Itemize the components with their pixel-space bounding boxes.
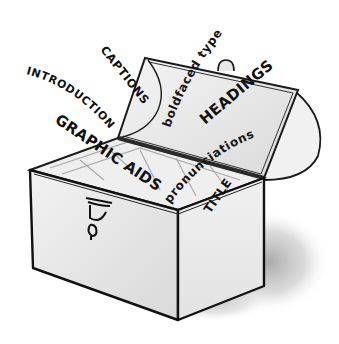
text-features-toolbox-illustration: INTRODUCTION CAPTIONS boldfaced type HEA… [0, 0, 339, 344]
latch-knob-icon [218, 60, 234, 71]
